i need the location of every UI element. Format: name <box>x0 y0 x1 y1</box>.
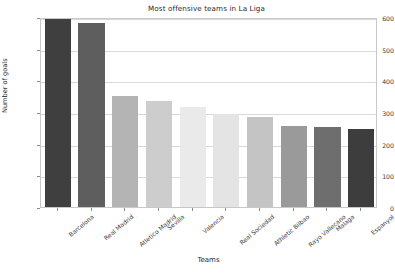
x-tick-mark <box>158 208 159 211</box>
x-tick-label: Athletic Bilbao <box>272 213 310 247</box>
x-tick-mark <box>124 208 125 211</box>
bar <box>112 96 138 207</box>
bar <box>247 117 273 207</box>
x-tick-mark <box>225 208 226 211</box>
x-axis-label: Teams <box>40 256 377 264</box>
bars-layer <box>41 19 376 207</box>
x-tick-label: Barcelona <box>67 213 95 238</box>
x-tick-mark <box>259 208 260 211</box>
bar <box>213 114 239 207</box>
plot-area <box>40 18 377 208</box>
x-tick-mark <box>293 208 294 211</box>
bar <box>146 101 172 207</box>
x-tick-mark <box>91 208 92 211</box>
x-tick-mark <box>360 208 361 211</box>
x-tick-mark <box>57 208 58 211</box>
x-tick-label: Real Madrid <box>102 213 134 242</box>
y-tick-mark <box>37 208 40 209</box>
chart-title: Most offensive teams in La Liga <box>36 4 377 13</box>
x-tick-label: Valencia <box>201 213 225 235</box>
bar <box>348 129 374 207</box>
bar <box>78 23 104 207</box>
x-tick-mark <box>192 208 193 211</box>
bar <box>314 127 340 207</box>
x-tick-mark <box>326 208 327 211</box>
bar <box>45 19 71 207</box>
x-tick-label: Espanyol <box>370 213 395 236</box>
y-axis-label: Number of goals <box>1 58 9 113</box>
bar <box>281 126 307 207</box>
x-tick-label: Real Sociedad <box>238 213 275 246</box>
x-tick-label: Atletico Madrid <box>138 213 178 248</box>
bar <box>180 107 206 207</box>
